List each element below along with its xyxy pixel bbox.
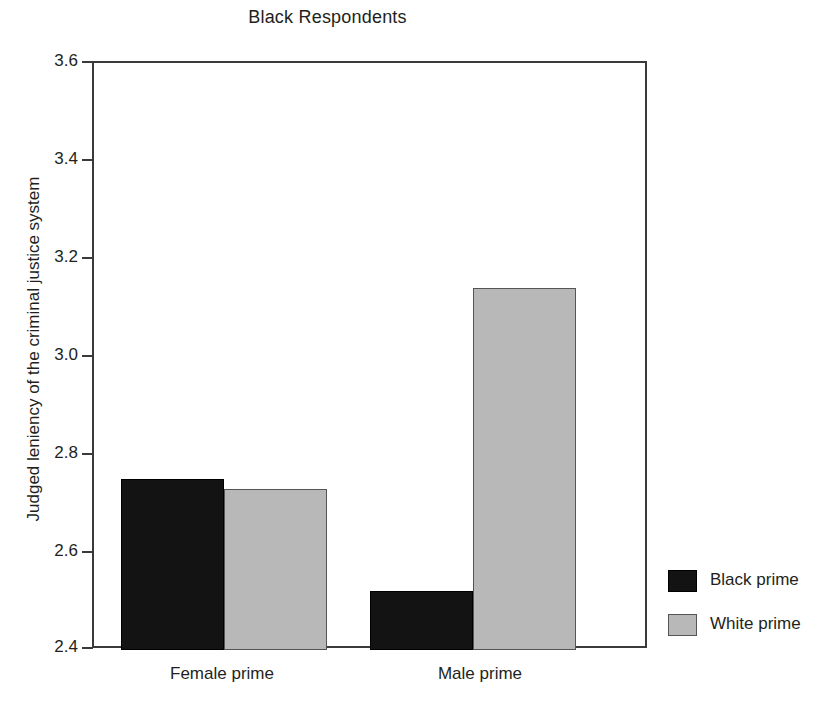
y-tick-label-2-8: 2.8 [32, 444, 78, 461]
legend: Black prime White prime [668, 566, 824, 654]
y-tick-label-3-0: 3.0 [32, 346, 78, 363]
bar-male-prime-black-prime [370, 591, 473, 650]
legend-label-black-prime: Black prime [710, 569, 799, 591]
legend-label-white-prime: White prime [710, 613, 801, 635]
plot-area [92, 61, 647, 648]
chart-title: Black Respondents [92, 6, 563, 28]
bar-male-prime-white-prime [473, 288, 576, 650]
bar-female-prime-white-prime [224, 489, 327, 650]
bar-chart-figure: Black Respondents Judged leniency of the… [0, 0, 826, 701]
y-tick-label-2-6: 2.6 [32, 542, 78, 559]
x-category-label-female-prime: Female prime [142, 664, 302, 684]
x-category-label-male-prime: Male prime [400, 664, 560, 684]
legend-item-black-prime[interactable]: Black prime [668, 566, 824, 610]
y-tick-label-3-4: 3.4 [32, 150, 78, 167]
bar-female-prime-black-prime [121, 479, 224, 650]
y-tick-label-3-6: 3.6 [32, 52, 78, 69]
y-tick-label-2-4: 2.4 [32, 638, 78, 655]
legend-swatch-white-prime [668, 614, 697, 636]
legend-swatch-black-prime [668, 570, 697, 592]
legend-item-white-prime[interactable]: White prime [668, 610, 824, 654]
y-tick-label-3-2: 3.2 [32, 248, 78, 265]
